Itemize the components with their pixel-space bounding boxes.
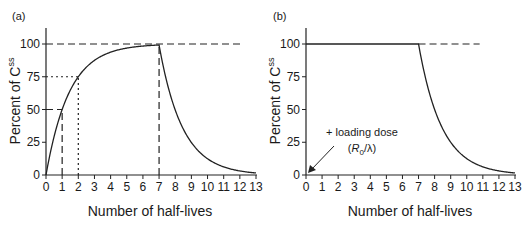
x-tick-label: 2 [75,180,82,194]
x-tick-label: 10 [201,180,215,194]
x-tick-label: 6 [399,180,406,194]
x-tick-label: 3 [351,180,358,194]
panel-b-x-ticks: 012345678910111213 [303,175,522,194]
y-tick-label: 25 [27,135,41,149]
panel-a-reference-lines [46,44,243,175]
x-tick-label: 1 [319,180,326,194]
x-tick-label: 5 [383,180,390,194]
panel-b-label: (b) [273,10,286,22]
y-tick-label: 50 [27,103,41,117]
panel-a-label: (a) [12,10,25,22]
y-tick-label: 0 [33,168,40,182]
x-tick-label: 4 [367,180,374,194]
y-tick-label: 75 [287,70,301,84]
arrow-icon [311,146,334,170]
loading-dose-annotation: + loading dose [326,126,398,138]
panel-a-x-ticks: 012345678910111213 [43,175,263,194]
y-tick-label: 75 [27,70,41,84]
x-tick-label: 5 [123,180,130,194]
x-tick-label: 9 [188,180,195,194]
x-tick-label: 7 [415,180,422,194]
x-tick-label: 12 [233,180,247,194]
y-tick-label: 0 [293,168,300,182]
x-tick-label: 1 [59,180,66,194]
x-tick-label: 11 [477,180,490,194]
y-tick-label: 50 [287,103,301,117]
x-tick-label: 2 [335,180,342,194]
figure: (a) 012345678910111213 0255075100 Number… [0,0,532,227]
x-tick-label: 9 [447,180,454,194]
panel-a-x-label: Number of half-lives [88,203,213,219]
panel-a-y-label: Percent of Css [6,57,23,144]
x-tick-label: 7 [156,180,163,194]
x-tick-label: 11 [217,180,230,194]
x-tick-label: 12 [492,180,506,194]
panel-b-y-ticks: 0255075100 [280,37,306,182]
x-tick-label: 10 [460,180,474,194]
panel-a-y-ticks: 0255075100 [20,37,46,182]
panel-b-y-label: Percent of Css [266,57,283,144]
panel-b-x-label: Number of half-lives [348,203,473,219]
x-tick-label: 6 [140,180,147,194]
x-tick-label: 13 [508,180,522,194]
x-tick-label: 0 [303,180,310,194]
x-tick-label: 8 [172,180,179,194]
x-tick-label: 4 [107,180,114,194]
panel-a-chart: (a) 012345678910111213 0255075100 Number… [6,10,263,219]
panel-a-curve [46,45,256,175]
y-tick-label: 100 [20,37,40,51]
panel-b-chart: (b) 012345678910111213 0255075100 Number… [266,10,522,219]
x-tick-label: 3 [91,180,98,194]
x-tick-label: 13 [249,180,263,194]
y-tick-label: 100 [280,37,300,51]
y-tick-label: 25 [287,135,301,149]
x-tick-label: 8 [431,180,438,194]
x-tick-label: 0 [43,180,50,194]
loading-dose-formula: (R0/λ) [348,142,376,157]
panel-b-curve [306,44,515,173]
